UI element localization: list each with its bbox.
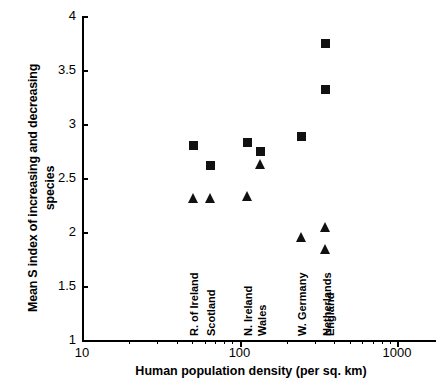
y-tick-label-text: 3 bbox=[42, 117, 76, 130]
data-point-triangle bbox=[242, 191, 252, 201]
y-tick-label-text: 1 bbox=[42, 333, 76, 346]
x-tick-mark-minor bbox=[129, 340, 130, 344]
x-tick-mark-minor bbox=[215, 340, 216, 344]
y-tick-mark bbox=[82, 286, 88, 288]
x-tick-mark-minor bbox=[334, 340, 335, 344]
x-tick-label: 1000 bbox=[367, 346, 427, 359]
x-tick-mark-minor bbox=[224, 340, 225, 344]
data-point-square bbox=[243, 138, 252, 147]
x-tick-mark-minor bbox=[192, 340, 193, 344]
x-tick-label: 100 bbox=[210, 346, 270, 359]
y-tick-label-text: 4 bbox=[42, 9, 76, 22]
x-tick-mark-minor bbox=[177, 340, 178, 344]
data-point-triangle bbox=[188, 193, 198, 203]
data-point-square bbox=[189, 141, 198, 150]
y-tick-mark bbox=[82, 178, 88, 180]
x-axis-line bbox=[82, 340, 436, 342]
y-tick-label: 4 bbox=[38, 9, 76, 22]
x-tick-mark-minor bbox=[382, 340, 383, 344]
x-tick-mark-minor bbox=[315, 340, 316, 344]
data-point-triangle bbox=[320, 244, 330, 254]
y-tick-mark bbox=[82, 16, 88, 18]
y-tick-label: 1 bbox=[38, 333, 76, 346]
x-tick-mark-major bbox=[240, 340, 242, 347]
x-tick-mark-major bbox=[397, 340, 399, 347]
x-tick-mark-minor bbox=[157, 340, 158, 344]
category-label-scotland: Scotland bbox=[206, 290, 217, 336]
data-point-triangle bbox=[296, 232, 306, 242]
scatter-chart: Mean S index of increasing and decreasin… bbox=[0, 0, 442, 383]
y-tick-label: 2.5 bbox=[38, 171, 76, 184]
y-tick-label: 1.5 bbox=[38, 279, 76, 292]
data-point-square bbox=[256, 147, 265, 156]
x-tick-label: 10 bbox=[52, 346, 112, 359]
y-tick-label: 3 bbox=[38, 117, 76, 130]
x-tick-mark-minor bbox=[205, 340, 206, 344]
data-point-triangle bbox=[205, 193, 215, 203]
data-point-triangle bbox=[255, 159, 265, 169]
category-label-n-ireland: N. Ireland bbox=[243, 286, 254, 336]
y-tick-label-text: 3.5 bbox=[42, 63, 76, 76]
x-tick-mark-minor bbox=[362, 340, 363, 344]
category-label-wales: Wales bbox=[257, 305, 268, 336]
x-tick-mark-minor bbox=[390, 340, 391, 344]
y-tick-label: 2 bbox=[38, 225, 76, 238]
y-tick-mark bbox=[82, 124, 88, 126]
category-label-r-of-ireland: R. of Ireland bbox=[189, 272, 200, 336]
y-tick-label: 3.5 bbox=[38, 63, 76, 76]
data-point-square bbox=[321, 39, 330, 48]
data-point-square bbox=[297, 132, 306, 141]
x-tick-mark-minor bbox=[373, 340, 374, 344]
y-tick-label-text: 2.5 bbox=[42, 171, 76, 184]
data-point-triangle bbox=[320, 222, 330, 232]
y-tick-mark bbox=[82, 70, 88, 72]
category-label-england: England bbox=[325, 293, 336, 336]
x-tick-mark-minor bbox=[350, 340, 351, 344]
y-tick-label-text: 2 bbox=[42, 225, 76, 238]
y-tick-mark bbox=[82, 232, 88, 234]
x-tick-mark-minor bbox=[287, 340, 288, 344]
y-tick-label-text: 1.5 bbox=[42, 279, 76, 292]
category-label-w-germany: W. Germany bbox=[297, 272, 308, 336]
data-point-square bbox=[206, 161, 215, 170]
data-point-square bbox=[321, 85, 330, 94]
x-axis-title: Human population density (per sq. km) bbox=[60, 364, 442, 378]
x-tick-mark-minor bbox=[232, 340, 233, 344]
